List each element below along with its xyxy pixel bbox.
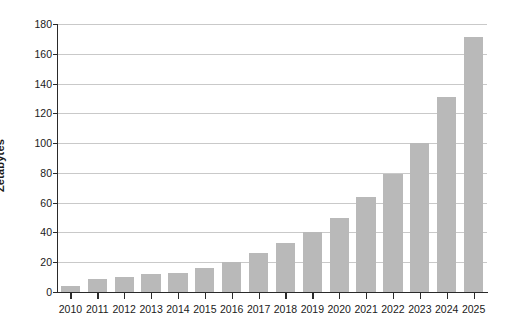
x-tick-mark — [259, 293, 260, 299]
bar[interactable] — [464, 37, 483, 292]
x-tick-label: 2016 — [220, 303, 243, 315]
y-tick-label: 40 — [40, 226, 52, 238]
bar[interactable] — [61, 286, 80, 292]
x-tick-label: 2024 — [435, 303, 458, 315]
x-tick-mark — [124, 293, 125, 299]
bar[interactable] — [249, 253, 268, 292]
x-tick-label: 2021 — [354, 303, 377, 315]
bar-slot — [326, 24, 353, 292]
x-tick-label: 2013 — [139, 303, 162, 315]
bar-slot — [191, 24, 218, 292]
y-tick-label: 0 — [46, 286, 52, 298]
x-tick-mark — [97, 293, 98, 299]
x-tick-label: 2018 — [274, 303, 297, 315]
bar-slot — [111, 24, 138, 292]
x-tick-mark — [420, 293, 421, 299]
y-tick-label: 140 — [34, 78, 52, 90]
bar-slot — [138, 24, 165, 292]
bar-slot — [218, 24, 245, 292]
bar[interactable] — [88, 279, 107, 292]
x-tick-mark — [70, 293, 71, 299]
bar[interactable] — [141, 274, 160, 292]
bar-slot — [460, 24, 487, 292]
bar-slot — [380, 24, 407, 292]
y-tick-label: 100 — [34, 137, 52, 149]
bar[interactable] — [195, 268, 214, 292]
bar[interactable] — [303, 232, 322, 292]
x-tick-label: 2020 — [328, 303, 351, 315]
bar-slot — [165, 24, 192, 292]
bar[interactable] — [437, 97, 456, 292]
bar[interactable] — [383, 174, 402, 292]
x-tick-mark — [285, 293, 286, 299]
y-tick-label: 180 — [34, 18, 52, 30]
bar-chart: Zetabytes 020406080100120140160180 20102… — [0, 0, 505, 331]
x-tick-mark — [205, 293, 206, 299]
x-tick-mark — [178, 293, 179, 299]
x-tick-mark — [232, 293, 233, 299]
x-tick-label: 2011 — [86, 303, 109, 315]
x-tick-mark — [151, 293, 152, 299]
x-tick-mark — [339, 293, 340, 299]
bar[interactable] — [410, 143, 429, 292]
bar[interactable] — [115, 277, 134, 292]
x-tick-mark — [474, 293, 475, 299]
bar-slot — [57, 24, 84, 292]
bar[interactable] — [222, 262, 241, 292]
x-axis-tick-marks — [57, 293, 487, 301]
x-tick-mark — [366, 293, 367, 299]
x-tick-label: 2022 — [381, 303, 404, 315]
x-tick-mark — [447, 293, 448, 299]
y-tick-label: 160 — [34, 48, 52, 60]
y-tick-label: 60 — [40, 197, 52, 209]
bar-slot — [245, 24, 272, 292]
bar[interactable] — [276, 243, 295, 292]
x-tick-mark — [393, 293, 394, 299]
x-tick-label: 2025 — [462, 303, 485, 315]
x-tick-label: 2015 — [193, 303, 216, 315]
x-tick-label: 2012 — [113, 303, 136, 315]
bar-slot — [84, 24, 111, 292]
bar-slot — [299, 24, 326, 292]
x-tick-label: 2017 — [247, 303, 270, 315]
x-tick-label: 2019 — [301, 303, 324, 315]
y-tick-label: 20 — [40, 256, 52, 268]
bar-slot — [272, 24, 299, 292]
y-tick-label: 80 — [40, 167, 52, 179]
x-tick-label: 2023 — [408, 303, 431, 315]
x-tick-label: 2010 — [59, 303, 82, 315]
bar[interactable] — [356, 197, 375, 292]
bar-slot — [406, 24, 433, 292]
bar[interactable] — [330, 218, 349, 292]
y-tick-label: 120 — [34, 107, 52, 119]
bar-slot — [353, 24, 380, 292]
bars-layer — [57, 24, 487, 292]
y-axis-tick-labels: 020406080100120140160180 — [22, 0, 52, 331]
bar-slot — [433, 24, 460, 292]
bar[interactable] — [168, 273, 187, 292]
x-axis-tick-labels: 2010201120122013201420152016201720182019… — [57, 303, 487, 319]
x-tick-mark — [312, 293, 313, 299]
x-tick-label: 2014 — [166, 303, 189, 315]
